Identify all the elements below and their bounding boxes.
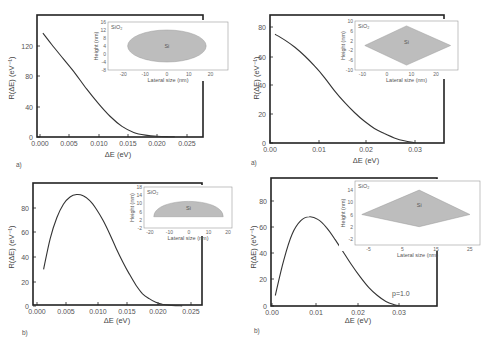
inset-y-tick-label: 8 — [103, 35, 106, 41]
y-axis-label: R(ΔE) (eV⁻¹) — [249, 225, 258, 269]
inset-y-axis-label: Height (nm) — [340, 31, 346, 60]
inset-y-tick-label: 12 — [100, 27, 106, 33]
core-label: Si — [404, 39, 409, 45]
y-tick-label: 80 — [259, 198, 267, 205]
panel-label: b) — [254, 327, 260, 335]
x-tick-label: 0.010 — [90, 140, 108, 147]
matrix-label: SiO₂ — [358, 23, 369, 29]
inset-x-tick-label: 25 — [467, 246, 473, 252]
x-tick-label: 0.005 — [60, 140, 78, 147]
panel-label: a) — [16, 161, 22, 169]
matrix-label: SiO₂ — [111, 24, 122, 30]
inset-y-tick-label: 18 — [136, 184, 142, 190]
y-tick-label: 40 — [21, 254, 29, 261]
inset-x-tick-label: -10 — [359, 71, 366, 77]
inset-y-tick-label: 4 — [103, 43, 106, 49]
inset-y-tick-label: 6 — [350, 28, 353, 34]
y-tick-label: 20 — [21, 279, 29, 286]
inset-y-axis-label: Height (nm) — [93, 31, 99, 60]
y-axis-label: R(ΔE) (eV⁻¹) — [7, 56, 16, 100]
inset-x-tick-label: 20 — [433, 71, 439, 77]
annotation-text: p=1.0 — [392, 290, 410, 298]
x-tick-label: 0.01 — [312, 146, 326, 153]
x-axis-label: ΔE (eV) — [105, 150, 132, 159]
inset-x-tick-label: -20 — [120, 71, 127, 77]
inset-y-tick-label: -2 — [138, 225, 143, 231]
inset-shape-plot: -20-1001020-226101418Lateral size (nm)He… — [128, 184, 233, 241]
inset-x-axis-label: Lateral size (nm) — [168, 235, 209, 241]
inset-x-axis-label: Lateral size (nm) — [397, 252, 438, 258]
y-tick-label: 120 — [21, 43, 33, 50]
x-tick-label: 0.03 — [392, 309, 406, 316]
x-tick-label: 0.005 — [57, 308, 75, 315]
figure-canvas: 040801200.0000.0050.0100.0150.0200.025ΔE… — [0, 0, 494, 347]
x-tick-label: 0.010 — [89, 308, 107, 315]
inset-y-tick-label: 2 — [139, 217, 142, 223]
matrix-label: SiO₂ — [147, 189, 158, 195]
y-tick-label: 20 — [259, 276, 267, 283]
y-tick-label: 80 — [21, 205, 29, 212]
x-tick-label: 0.000 — [28, 308, 46, 315]
x-axis-label: ΔE (eV) — [353, 156, 380, 165]
x-tick-label: 0.025 — [178, 140, 196, 147]
inset-y-tick-label: -2 — [349, 236, 354, 242]
inset-y-tick-label: 6 — [350, 212, 353, 218]
inset-shape-plot: -551525-2261014Lateral size (nm)Height (… — [339, 179, 481, 258]
chart-panel-top-right: 0204060800.000.010.020.03ΔE (eV)R(ΔE) (e… — [251, 15, 461, 167]
inset-y-tick-label: 2 — [350, 38, 353, 44]
inset-x-axis-label: Lateral size (nm) — [386, 77, 427, 83]
y-tick-label: 80 — [25, 73, 33, 80]
core-label: Si — [417, 202, 422, 208]
y-tick-label: 60 — [259, 224, 267, 231]
x-tick-label: 0.03 — [408, 146, 422, 153]
chart-panel-top-left: 040801200.0000.0050.0100.0150.0200.025ΔE… — [7, 15, 233, 169]
x-tick-label: 0.020 — [148, 140, 166, 147]
inset-shape-plot: -1001020-10-6-22610Lateral size (nm)Heig… — [338, 18, 461, 83]
inset-shape-plot: -20-1001020-8-40481216Lateral size (nm)H… — [89, 19, 233, 83]
panel-label: b) — [22, 329, 28, 337]
y-tick-label: 40 — [25, 104, 33, 111]
inset-y-tick-label: -6 — [349, 57, 354, 63]
inset-y-tick-label: -10 — [346, 67, 353, 73]
inset-x-tick-label: -5 — [366, 246, 371, 252]
inset-y-tick-label: 10 — [347, 18, 353, 24]
inset-y-tick-label: -4 — [102, 59, 107, 65]
x-tick-label: 0.020 — [149, 308, 167, 315]
chart-panel-bottom-left: 0204060800.0000.0050.0100.0150.0200.025Δ… — [7, 183, 233, 337]
y-tick-label: 60 — [21, 229, 29, 236]
y-tick-label: 20 — [258, 111, 266, 118]
x-tick-label: 0.015 — [119, 140, 137, 147]
inset-x-axis-label: Lateral size (nm) — [148, 77, 189, 83]
inset-x-tick-label: -20 — [146, 229, 153, 235]
inset-y-tick-label: -8 — [102, 67, 107, 73]
x-axis-label: ΔE (eV) — [104, 316, 131, 325]
y-axis-label: R(ΔE) (eV⁻¹) — [252, 56, 261, 100]
inset-x-tick-label: 20 — [208, 71, 214, 77]
inset-y-axis-label: Height (nm) — [340, 198, 346, 227]
x-tick-label: 0.00 — [265, 309, 279, 316]
y-tick-label: 80 — [258, 24, 266, 31]
y-axis-label: R(ΔE) (eV⁻¹) — [7, 225, 16, 269]
x-tick-label: 0.02 — [351, 309, 365, 316]
inset-y-tick-label: 16 — [100, 19, 106, 25]
inset-y-tick-label: 6 — [139, 209, 142, 215]
x-tick-label: 0.00 — [263, 146, 277, 153]
x-tick-label: 0.02 — [359, 146, 373, 153]
x-tick-label: 0.01 — [309, 309, 323, 316]
inset-y-tick-label: 14 — [136, 192, 142, 198]
x-tick-label: 0.025 — [182, 308, 200, 315]
panel-label: a) — [251, 159, 257, 167]
x-tick-label: 0.015 — [118, 308, 136, 315]
inset-y-tick-label: 10 — [136, 200, 142, 206]
x-tick-label: 0.000 — [31, 140, 49, 147]
inset-y-tick-label: 0 — [103, 51, 106, 57]
core-label: Si — [186, 205, 191, 211]
inset-y-tick-label: 2 — [350, 224, 353, 230]
chart-panel-bottom-right: 0204060800.000.010.020.03ΔE (eV)R(ΔE) (e… — [249, 178, 481, 335]
inset-y-tick-label: -2 — [349, 47, 354, 53]
x-axis-label: ΔE (eV) — [345, 316, 372, 325]
y-tick-label: 40 — [259, 250, 267, 257]
inset-y-tick-label: 10 — [347, 199, 353, 205]
inset-x-tick-label: 20 — [225, 229, 231, 235]
core-label: Si — [164, 43, 169, 49]
